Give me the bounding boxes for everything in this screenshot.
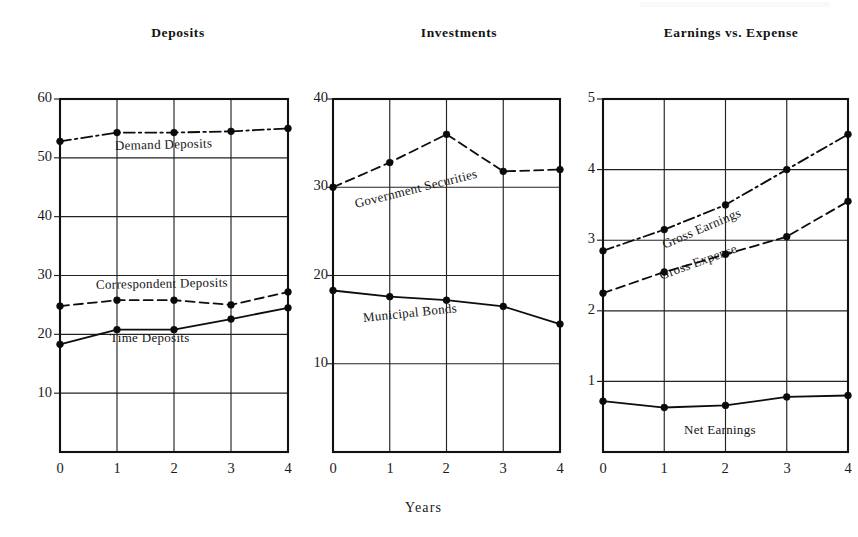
data-marker bbox=[600, 290, 607, 297]
data-marker bbox=[600, 398, 607, 405]
data-marker bbox=[330, 184, 337, 191]
data-marker bbox=[228, 316, 235, 323]
data-marker bbox=[722, 402, 729, 409]
data-marker bbox=[171, 297, 178, 304]
data-marker bbox=[661, 269, 668, 276]
data-marker bbox=[57, 138, 64, 145]
data-marker bbox=[443, 131, 450, 138]
data-marker bbox=[722, 251, 729, 258]
data-marker bbox=[845, 131, 852, 138]
panel-1 bbox=[327, 99, 563, 452]
data-marker bbox=[500, 168, 507, 175]
data-marker bbox=[57, 341, 64, 348]
data-marker bbox=[845, 392, 852, 399]
data-marker bbox=[171, 326, 178, 333]
data-marker bbox=[386, 293, 393, 300]
data-marker bbox=[285, 289, 292, 296]
data-marker bbox=[386, 159, 393, 166]
data-marker bbox=[600, 247, 607, 254]
data-marker bbox=[114, 297, 121, 304]
data-marker bbox=[845, 198, 852, 205]
data-marker bbox=[783, 233, 790, 240]
data-marker bbox=[783, 166, 790, 173]
data-marker bbox=[557, 321, 564, 328]
data-marker bbox=[500, 303, 507, 310]
data-marker bbox=[285, 125, 292, 132]
data-marker bbox=[722, 202, 729, 209]
data-marker bbox=[285, 304, 292, 311]
data-marker bbox=[443, 297, 450, 304]
data-marker bbox=[228, 302, 235, 309]
data-marker bbox=[57, 303, 64, 310]
data-marker bbox=[330, 287, 337, 294]
data-marker bbox=[661, 404, 668, 411]
panel-2 bbox=[597, 99, 851, 452]
chart-figure: Deposits 60 50 40 30 20 10 0 1 2 3 4 Dem… bbox=[0, 0, 858, 537]
data-marker bbox=[557, 166, 564, 173]
data-marker bbox=[228, 128, 235, 135]
data-marker bbox=[114, 129, 121, 136]
plot-canvas bbox=[0, 0, 858, 537]
panel-0 bbox=[54, 99, 291, 452]
data-marker bbox=[661, 226, 668, 233]
data-marker bbox=[114, 326, 121, 333]
data-marker bbox=[171, 129, 178, 136]
data-marker bbox=[783, 394, 790, 401]
